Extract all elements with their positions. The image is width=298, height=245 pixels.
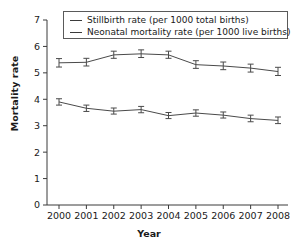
- legend-label: Stillbirth rate (per 1000 total births): [87, 14, 249, 26]
- y-tick-label: 3: [34, 120, 40, 131]
- data-series-layer: [56, 50, 281, 124]
- x-tick-label: 2005: [184, 210, 208, 221]
- legend-line-swatch-icon: [70, 20, 82, 21]
- y-tick-label: 2: [34, 147, 40, 158]
- x-axis-title: Year: [0, 228, 298, 239]
- x-tick-label: 2000: [47, 210, 71, 221]
- legend-line-swatch-icon: [70, 32, 82, 33]
- x-tick-label: 2004: [156, 210, 180, 221]
- x-tick-label: 2001: [74, 210, 98, 221]
- y-tick-label: 5: [34, 67, 40, 78]
- legend-label: Neonatal mortality rate (per 1000 live b…: [87, 26, 290, 38]
- x-tick-label: 2002: [102, 210, 126, 221]
- chart-legend: Stillbirth rate (per 1000 total births) …: [63, 11, 288, 39]
- y-tick-label: 7: [34, 14, 40, 25]
- chart-figure: 01234567 2000200120022003200420052006200…: [0, 0, 298, 245]
- x-tick-label: 2006: [211, 210, 235, 221]
- series-neonatal: [56, 99, 281, 124]
- y-tick-label: 6: [34, 41, 40, 52]
- legend-item-neonatal: Neonatal mortality rate (per 1000 live b…: [70, 26, 287, 38]
- y-axis-ticks: 01234567: [34, 14, 47, 210]
- x-tick-label: 2003: [129, 210, 153, 221]
- legend-item-stillbirth: Stillbirth rate (per 1000 total births): [70, 14, 287, 26]
- y-axis-title: Mortality rate: [9, 54, 20, 134]
- y-tick-label: 0: [34, 199, 40, 210]
- x-tick-label: 2007: [239, 210, 263, 221]
- x-tick-label: 2008: [266, 210, 290, 221]
- series-stillbirth: [56, 50, 281, 76]
- y-tick-label: 4: [34, 94, 40, 105]
- y-tick-label: 1: [34, 173, 40, 184]
- x-axis-ticks: 200020012002200320042005200620072008: [47, 205, 290, 221]
